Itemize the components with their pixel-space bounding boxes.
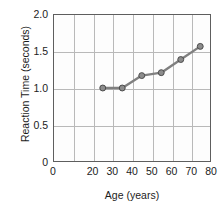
data-point-marker <box>178 57 184 63</box>
data-point-marker <box>100 85 106 91</box>
x-tick-label: 80 <box>199 165 223 178</box>
data-point-marker <box>119 85 125 91</box>
x-tick-label: 0 <box>41 165 65 178</box>
y-tick-label: 1.0 <box>22 82 48 94</box>
chart-figure: Reaction Time (seconds) 00.51.01.52.0 02… <box>0 0 224 209</box>
x-axis-title: Age (years) <box>53 188 211 202</box>
y-tick-label: 0.5 <box>22 119 48 131</box>
data-point-marker <box>197 43 203 49</box>
data-point-marker <box>158 70 164 76</box>
series-polyline <box>103 46 201 88</box>
plot-area <box>53 14 211 162</box>
y-tick-label: 2.0 <box>22 8 48 20</box>
x-axis-tick-labels: 020304050607080 <box>53 165 211 179</box>
y-tick-label: 1.5 <box>22 45 48 57</box>
data-point-marker <box>139 73 145 79</box>
data-series-line <box>54 15 210 161</box>
